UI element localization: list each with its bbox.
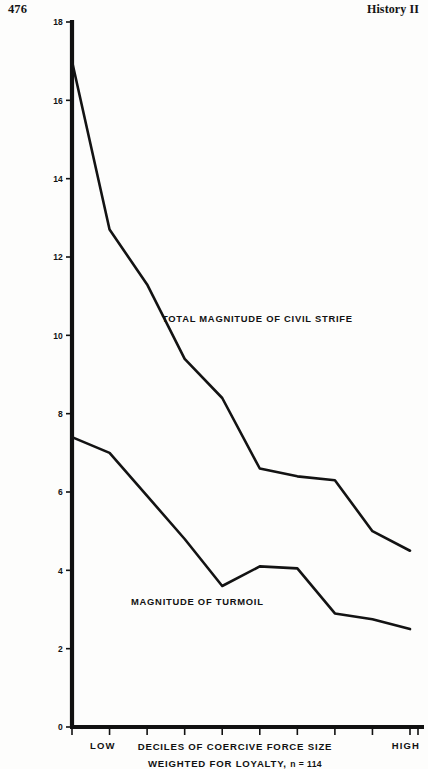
x-axis-label-low: LOW: [90, 740, 115, 751]
y-axis-tick-label: 2: [58, 644, 63, 654]
y-axis-tick-label: 4: [58, 566, 63, 576]
y-axis-tick-label: 0: [58, 722, 63, 732]
series-line-1: [72, 61, 410, 551]
series-annotation-2: MAGNITUDE OF TURMOIL: [131, 596, 264, 607]
axis-captions: DECILES OF COERCIVE FORCE SIZEWEIGHTED F…: [138, 741, 333, 769]
y-axis-tick-label: 16: [53, 96, 63, 106]
y-axis: 024681012141618: [53, 17, 72, 732]
y-axis-tick-label: 6: [58, 487, 63, 497]
chart-svg: 024681012141618 LOWHIGH TOTAL MAGNITUDE …: [0, 0, 428, 769]
x-axis-caption-line2: WEIGHTED FOR LOYALTY, n = 114: [148, 758, 322, 769]
y-axis-tick-label: 10: [53, 331, 63, 341]
x-axis-label-high: HIGH: [392, 740, 420, 751]
series-annotations: TOTAL MAGNITUDE OF CIVIL STRIFEMAGNITUDE…: [131, 313, 353, 607]
y-axis-tick-label: 12: [53, 252, 63, 262]
page-canvas: 476 History II 024681012141618 LOWHIGH T…: [0, 0, 428, 769]
y-axis-tick-label: 14: [53, 174, 63, 184]
series-lines: [72, 61, 410, 629]
x-axis-caption-n: n = 114: [290, 759, 322, 769]
chart-figure: 024681012141618 LOWHIGH TOTAL MAGNITUDE …: [0, 0, 428, 769]
series-annotation-1: TOTAL MAGNITUDE OF CIVIL STRIFE: [162, 313, 353, 324]
x-axis-caption-line1: DECILES OF COERCIVE FORCE SIZE: [138, 741, 333, 752]
y-axis-tick-label: 18: [53, 17, 63, 27]
x-axis-caption-weighted: WEIGHTED FOR LOYALTY,: [148, 758, 290, 769]
y-axis-tick-label: 8: [58, 409, 63, 419]
